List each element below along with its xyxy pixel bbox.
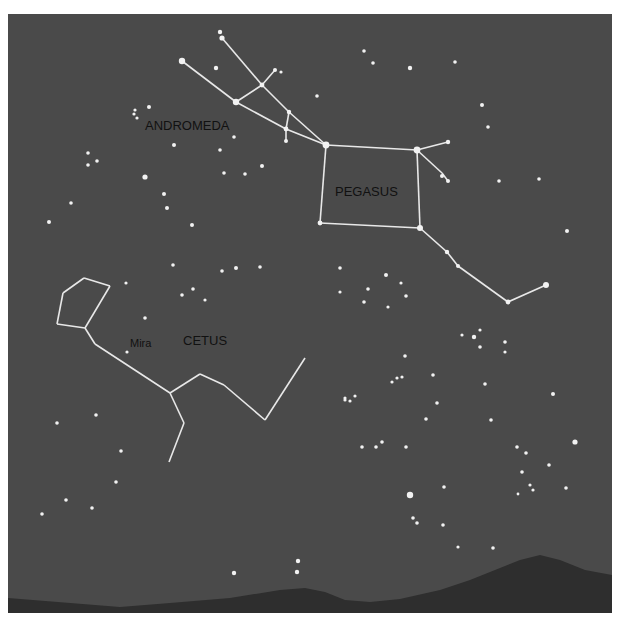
star bbox=[531, 488, 534, 491]
star bbox=[284, 127, 289, 132]
star bbox=[515, 445, 519, 449]
star bbox=[572, 439, 577, 444]
star bbox=[69, 201, 73, 205]
star bbox=[125, 350, 128, 353]
label-andromeda: ANDROMEDA bbox=[145, 118, 230, 133]
star bbox=[220, 269, 224, 273]
star bbox=[386, 305, 389, 308]
star bbox=[353, 394, 356, 397]
star bbox=[142, 174, 147, 179]
star bbox=[371, 61, 375, 65]
star bbox=[403, 354, 407, 358]
star bbox=[411, 516, 415, 520]
star bbox=[190, 223, 194, 227]
star bbox=[86, 163, 90, 167]
star bbox=[323, 142, 330, 149]
star bbox=[472, 335, 476, 339]
star bbox=[55, 421, 59, 425]
star bbox=[445, 250, 449, 254]
star bbox=[441, 523, 445, 527]
star bbox=[273, 68, 277, 72]
star bbox=[497, 179, 501, 183]
night-sky-panel bbox=[8, 14, 612, 613]
label-mira: Mira bbox=[130, 337, 152, 349]
star bbox=[517, 493, 520, 496]
star bbox=[543, 282, 549, 288]
star bbox=[218, 148, 222, 152]
star bbox=[119, 449, 123, 453]
star bbox=[86, 151, 90, 155]
star bbox=[132, 112, 135, 115]
star bbox=[222, 171, 226, 175]
star bbox=[528, 483, 531, 486]
star bbox=[338, 266, 342, 270]
star bbox=[399, 281, 402, 284]
star bbox=[390, 380, 393, 383]
star bbox=[489, 418, 493, 422]
star bbox=[435, 401, 439, 405]
star bbox=[564, 486, 568, 490]
star bbox=[279, 70, 282, 73]
star bbox=[395, 376, 398, 379]
star bbox=[260, 83, 265, 88]
star bbox=[453, 60, 457, 64]
star bbox=[360, 445, 364, 449]
star bbox=[348, 399, 351, 402]
star bbox=[547, 463, 551, 467]
star bbox=[258, 265, 262, 269]
star bbox=[400, 375, 403, 378]
star bbox=[243, 172, 247, 176]
star bbox=[478, 328, 481, 331]
star bbox=[232, 571, 236, 575]
star bbox=[491, 546, 495, 550]
star bbox=[135, 116, 138, 119]
star bbox=[95, 159, 99, 163]
star bbox=[483, 382, 487, 386]
star bbox=[537, 177, 541, 181]
star bbox=[218, 30, 222, 34]
label-cetus: CETUS bbox=[183, 333, 227, 348]
star bbox=[338, 290, 341, 293]
star bbox=[503, 350, 506, 353]
label-pegasus: PEGASUS bbox=[335, 184, 398, 199]
star bbox=[296, 559, 300, 563]
star bbox=[408, 66, 412, 70]
star bbox=[524, 451, 528, 455]
star bbox=[446, 179, 450, 183]
star bbox=[362, 300, 366, 304]
star bbox=[486, 125, 490, 129]
star bbox=[315, 94, 319, 98]
star bbox=[287, 110, 291, 114]
star bbox=[407, 492, 413, 498]
star bbox=[478, 345, 482, 349]
star bbox=[417, 225, 423, 231]
star bbox=[47, 220, 51, 224]
star bbox=[384, 273, 388, 277]
star bbox=[404, 294, 408, 298]
star bbox=[147, 105, 151, 109]
star bbox=[362, 49, 366, 53]
star bbox=[90, 506, 94, 510]
star bbox=[124, 281, 127, 284]
star bbox=[446, 140, 450, 144]
star bbox=[232, 135, 236, 139]
star bbox=[551, 392, 555, 396]
star bbox=[114, 480, 118, 484]
star bbox=[203, 298, 206, 301]
star bbox=[284, 139, 288, 143]
star bbox=[520, 470, 524, 474]
star bbox=[234, 266, 238, 270]
star bbox=[172, 143, 176, 147]
star bbox=[165, 206, 169, 210]
star bbox=[171, 263, 175, 267]
star bbox=[133, 108, 136, 111]
star bbox=[456, 545, 459, 548]
star bbox=[415, 521, 419, 525]
star-chart: ANDROMEDA PEGASUS CETUS Mira bbox=[0, 0, 622, 619]
star bbox=[343, 398, 346, 401]
star bbox=[366, 287, 370, 291]
star bbox=[456, 264, 460, 268]
star bbox=[460, 333, 463, 336]
star bbox=[442, 485, 446, 489]
star bbox=[565, 229, 569, 233]
